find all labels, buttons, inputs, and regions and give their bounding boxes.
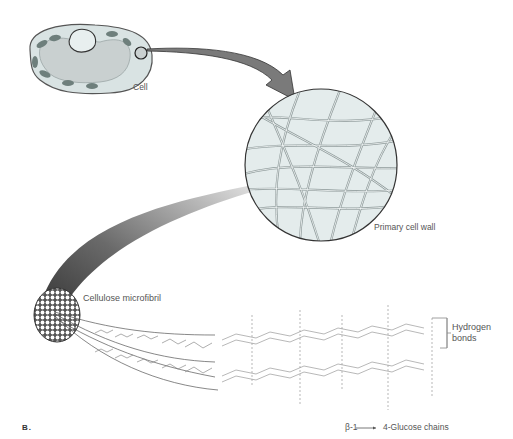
glucose-ring-glyphs xyxy=(95,330,212,373)
label-hydrogen-bonds: Hydrogen bonds xyxy=(452,322,491,344)
label-cellulose-microfibril: Cellulose microfibril xyxy=(83,293,161,303)
label-hydrogen-line1: Hydrogen xyxy=(452,322,491,333)
panel-letter: B. xyxy=(22,423,32,432)
glucose-chain-lines xyxy=(55,312,218,390)
cell-wall-diagram: Cell Primary cell wall Cellulose microfi… xyxy=(0,0,513,439)
label-cell: Cell xyxy=(133,82,148,92)
label-beta-prefix: β-1 xyxy=(345,422,357,432)
zoom-arrow xyxy=(147,48,295,100)
cell-wall-zoom-marker xyxy=(135,47,147,59)
label-primary-cell-wall: Primary cell wall xyxy=(374,222,435,232)
label-hydrogen-line2: bonds xyxy=(452,333,491,344)
label-glucose-chains: 4-Glucose chains xyxy=(383,422,449,432)
hydrogen-bond-bracket xyxy=(432,318,451,348)
glucose-chain-structures xyxy=(222,305,432,410)
